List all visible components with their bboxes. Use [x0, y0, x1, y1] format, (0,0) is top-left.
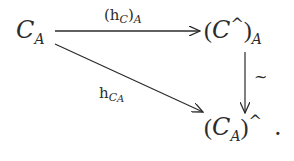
label-h-sub: C: [120, 13, 128, 26]
node-bottom-right-base: C: [212, 113, 230, 141]
diagonal-arrow-label: hCA: [99, 86, 124, 101]
label-h: h: [99, 84, 109, 102]
node-source: CA: [16, 18, 45, 42]
iso-tilde-label: ~: [254, 69, 267, 85]
hat-superscript: ^: [249, 112, 262, 131]
label-h-subsub: A: [117, 93, 124, 104]
paren-open: (: [204, 17, 212, 43]
hat-superscript: ^: [230, 15, 243, 34]
label-h: h: [110, 6, 120, 24]
node-source-sub: A: [34, 31, 44, 47]
node-top-right-sub: A: [252, 31, 262, 47]
node-bottom-right: (CA)^.: [204, 115, 282, 139]
paren-close: ): [244, 17, 252, 43]
label-paren-close: ): [128, 6, 134, 24]
trailing-period: .: [274, 113, 282, 141]
top-arrow-label: (hC)A: [104, 8, 142, 23]
node-source-base: C: [16, 16, 34, 44]
paren-close: ): [241, 114, 249, 140]
node-bottom-right-sub: A: [230, 128, 240, 144]
tilde-symbol: ~: [254, 67, 267, 86]
paren-open: (: [204, 114, 212, 140]
label-outer-sub: A: [134, 13, 142, 26]
node-top-right-base: C: [212, 16, 230, 44]
diagonal-arrow: [55, 44, 203, 112]
label-h-sub: C: [109, 91, 117, 104]
node-top-right: (C^)A: [204, 18, 262, 42]
